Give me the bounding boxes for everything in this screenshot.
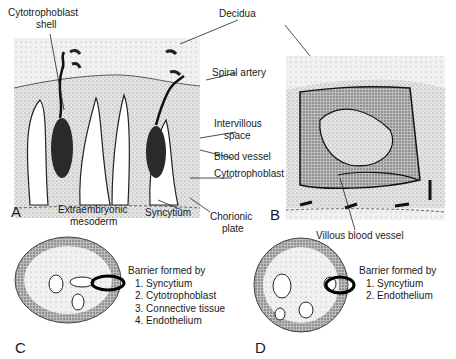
label-chorionic-plate-line2: plate	[222, 223, 244, 234]
barrier-list-d: Barrier formed by 1. Syncytium 2. Endoth…	[359, 265, 436, 303]
label-cytotrophoblast: Cytotrophoblast	[214, 168, 284, 179]
barrier-d-item: 1. Syncytium	[359, 278, 436, 291]
label-chorionic-plate-line1: Chorionic	[210, 211, 252, 222]
barrier-c-item: 1. Syncytium	[128, 278, 225, 291]
panel-letter-b: B	[270, 207, 280, 222]
label-intervillous-space-line2: space	[224, 130, 251, 141]
barrier-d-item: 2. Endothelium	[359, 290, 436, 303]
label-syncytium: Syncytium	[145, 207, 191, 218]
label-decidua: Decidua	[219, 8, 256, 19]
panel-letter-d: D	[255, 340, 266, 355]
panel-letter-a: A	[11, 204, 21, 219]
label-extraembryonic-mesoderm-line2: mesoderm	[70, 216, 117, 227]
placenta-illustration	[0, 0, 456, 359]
panel-a-drawing	[14, 38, 200, 218]
barrier-d-title: Barrier formed by	[359, 265, 436, 278]
panel-c-drawing	[15, 237, 124, 323]
label-intervillous-space-line1: Intervillous	[214, 118, 262, 129]
label-extraembryonic-mesoderm-line1: Extraembryonic	[58, 204, 127, 215]
barrier-c-item: 3. Connective tissue	[128, 303, 225, 316]
label-blood-vessel: Blood vessel	[214, 151, 271, 162]
barrier-c-item: 4. Endothelium	[128, 315, 225, 328]
barrier-list-c: Barrier formed by 1. Syncytium 2. Cytotr…	[128, 265, 225, 328]
panel-d-drawing	[254, 238, 354, 332]
panel-letter-c: C	[15, 340, 26, 355]
label-cytotrophoblast-shell-line1: Cytotrophoblast	[8, 7, 78, 18]
panel-b-drawing	[286, 56, 445, 220]
barrier-c-title: Barrier formed by	[128, 265, 225, 278]
label-spiral-artery: Spiral artery	[212, 67, 266, 78]
barrier-c-item: 2. Cytotrophoblast	[128, 290, 225, 303]
label-cytotrophoblast-shell-line2: shell	[36, 19, 57, 30]
label-villous-blood-vessel: Villous blood vessel	[316, 230, 404, 241]
